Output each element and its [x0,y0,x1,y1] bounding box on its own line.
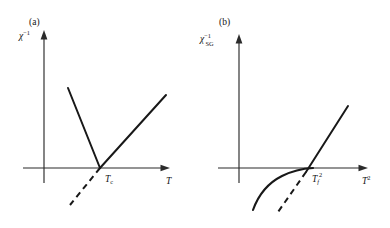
panel-b-x-axis-arrowhead [359,165,369,172]
panel-a-ascending-branch [100,95,166,168]
panel-a-descending-branch [68,88,100,168]
panel-b-y-axis-subscript: SG [205,40,214,47]
panel-b-y-axis-label: χ−1SG [199,32,214,47]
figure-container: (a) χ−1 T Tc [0,0,390,228]
panel-b-group: (b) χ−1SG T2 Tf2 [199,17,371,212]
panel-a-y-axis-superscript: −1 [23,29,30,36]
two-panel-susceptibility-figure: (a) χ−1 T Tc [0,0,390,228]
panel-b-y-axis-superscript: −1 [204,32,211,39]
svg-text:Tc: Tc [105,174,113,185]
panel-a-y-axis-label: χ−1 [18,29,30,41]
panel-a-label: (a) [29,17,40,28]
panel-b-y-axis-arrowhead [236,34,243,44]
panel-b-asymptote-line [306,106,348,172]
panel-b-tf-subscript: f [317,178,320,185]
panel-b-x-axis-superscript: 2 [367,174,370,181]
panel-a-x-axis-label: T [166,176,172,186]
panel-b-dashed-extrapolation [278,172,306,212]
panel-a-critical-temperature-label: Tc [105,174,113,185]
panel-b-tf-superscript: 2 [319,171,322,178]
panel-b-label: (b) [219,17,230,28]
panel-a-group: (a) χ−1 T Tc [18,17,172,205]
svg-text:Tf2: Tf2 [312,171,322,185]
svg-text:χ−1SG: χ−1SG [199,32,214,47]
panel-a-tc-subscript: c [110,178,113,185]
panel-a-y-axis-arrowhead [41,30,48,40]
svg-text:χ−1: χ−1 [18,29,30,41]
panel-a-x-axis-arrowhead [161,165,171,172]
panel-b-x-axis-label: T2 [362,174,371,186]
panel-a-dashed-extrapolation [70,168,100,205]
svg-text:T2: T2 [362,174,371,186]
panel-b-freezing-temperature-label: Tf2 [312,171,322,185]
